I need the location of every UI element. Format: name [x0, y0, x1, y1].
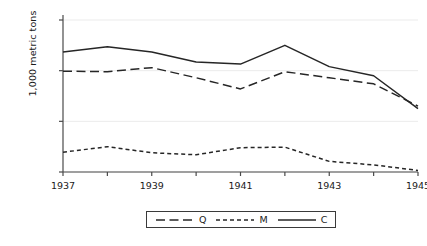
- legend-key-Q: [155, 216, 195, 224]
- legend-item-Q[interactable]: Q: [155, 215, 206, 225]
- x-axis-tick-labels: 19371939194119431945: [0, 0, 427, 246]
- x-tick-label: 1943: [317, 180, 341, 191]
- x-tick-label: 1937: [51, 180, 75, 191]
- x-tick-label: 1941: [228, 180, 252, 191]
- legend-key-C: [277, 216, 317, 224]
- legend-label-Q: Q: [199, 215, 206, 225]
- legend-key-M: [215, 216, 255, 224]
- legend-item-M[interactable]: M: [215, 215, 267, 225]
- line-chart-figure: 1,000 metric tons 05,00010,00015,000 193…: [0, 0, 427, 246]
- legend-label-C: C: [321, 215, 328, 225]
- x-tick-label: 1945: [406, 180, 427, 191]
- legend-label-M: M: [259, 215, 267, 225]
- chart-legend: QMC: [146, 211, 336, 228]
- legend-item-C[interactable]: C: [277, 215, 328, 225]
- x-tick-label: 1939: [140, 180, 164, 191]
